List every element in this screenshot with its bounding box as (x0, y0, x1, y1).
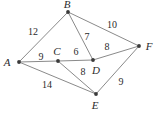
edge-weight-b-d: 7 (85, 32, 90, 42)
edge-weight-c-d: 6 (74, 47, 79, 57)
edge-weight-e-f: 9 (119, 77, 124, 87)
graph-node-d (91, 58, 95, 62)
graph-node-b (66, 10, 70, 14)
edge-weight-c-e: 8 (81, 67, 86, 77)
edge-weight-a-c: 9 (39, 52, 44, 62)
edge-weight-b-f: 10 (107, 20, 117, 30)
graph-node-e (94, 92, 98, 96)
edge-weight-d-f: 8 (105, 42, 110, 52)
node-label-d: D (92, 65, 100, 76)
edge-weight-a-e: 14 (42, 80, 52, 90)
graph-edge-c-e (58, 61, 96, 94)
node-label-b: B (64, 0, 71, 10)
weighted-graph-figure: ABCDEF129147106889 (0, 0, 162, 114)
node-label-f: F (146, 41, 153, 52)
graph-canvas (0, 0, 162, 114)
graph-edge-e-f (96, 46, 139, 94)
node-label-e: E (92, 100, 99, 111)
graph-node-a (17, 60, 21, 64)
graph-edge-b-f (68, 12, 139, 46)
graph-edge-c-d (58, 60, 93, 61)
edge-weight-a-b: 12 (28, 27, 38, 37)
node-label-c: C (53, 46, 60, 57)
graph-node-f (137, 44, 141, 48)
graph-node-c (56, 59, 60, 63)
node-label-a: A (4, 57, 11, 68)
